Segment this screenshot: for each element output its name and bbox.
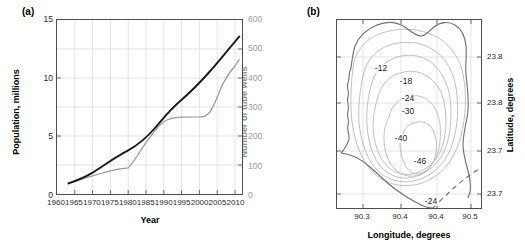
panel-b-ylabel: Latitude, degrees [505, 55, 515, 175]
ytick-b-2: 23.7 [487, 146, 503, 155]
xtick-b-1: 90.4 [392, 212, 408, 221]
ytick-right-0: 0 [248, 190, 288, 200]
ytick-right-500: 500 [248, 43, 288, 53]
panel-b-xlabel: Longitude, degrees [336, 230, 482, 240]
contour-label-24: -24 [401, 94, 415, 103]
district-boundary-west [341, 68, 351, 153]
axis-ticks [57, 49, 242, 194]
contour-label-24-lower: -24 [424, 197, 438, 206]
panel-a-ylabel-left: Population, millions [11, 52, 21, 172]
xtick-b-0: 90.3 [354, 212, 370, 221]
contour-label-40: -40 [394, 134, 408, 143]
xtick-a-1970: 1970 [83, 198, 101, 207]
xtick-a-1990: 1990 [155, 198, 173, 207]
panel-b-label: (b) [307, 6, 320, 17]
ytick-b-0: 23.8 [487, 52, 503, 61]
xtick-a-1965: 1965 [65, 198, 83, 207]
ytick-right-100: 100 [248, 161, 288, 171]
ytick-b-1: 23.8 [487, 98, 503, 107]
xtick-a-1960: 1960 [47, 198, 65, 207]
panel-b-contour-map: (b) 90.3 90.4 90.4 90.5 23.8 23.8 23.7 2… [300, 0, 525, 252]
panel-a-plot-area [56, 19, 243, 195]
ytick-right-400: 400 [248, 73, 288, 83]
ytick-left-15: 15 [13, 14, 53, 24]
panel-a-population-wells: (a) 0 5 10 15 0 100 200 300 400 500 600 … [0, 0, 300, 252]
xtick-a-2010: 2010 [227, 198, 245, 207]
panel-a-xlabel: Year [100, 215, 200, 225]
figure-container: (a) 0 5 10 15 0 100 200 300 400 500 600 … [0, 0, 525, 252]
contour-ring-46 [400, 122, 436, 174]
xtick-a-2000: 2000 [191, 198, 209, 207]
panel-a-svg [57, 20, 242, 194]
district-boundary-dashed [433, 169, 479, 208]
xtick-b-3: 90.5 [462, 212, 478, 221]
contour-label-18: -18 [399, 77, 413, 86]
contour-label-46: -46 [413, 157, 427, 166]
ytick-right-600: 600 [248, 14, 288, 24]
grid-lines [57, 20, 242, 194]
population-line [68, 36, 240, 184]
xtick-a-1980: 1980 [119, 198, 137, 207]
contour-label-12: -12 [374, 64, 388, 73]
xtick-a-1975: 1975 [101, 198, 119, 207]
contour-label-30: -30 [401, 107, 415, 116]
xtick-a-2005: 2005 [209, 198, 227, 207]
panel-b-plot-area: -12 -18 -24 -30 -40 -46 -24 [336, 19, 482, 209]
xtick-b-2: 90.4 [428, 212, 444, 221]
xtick-a-1985: 1985 [137, 198, 155, 207]
ytick-b-3: 23.7 [487, 189, 503, 198]
ytick-right-200: 200 [248, 131, 288, 141]
ytick-right-300: 300 [248, 102, 288, 112]
xtick-a-1995: 1995 [173, 198, 191, 207]
